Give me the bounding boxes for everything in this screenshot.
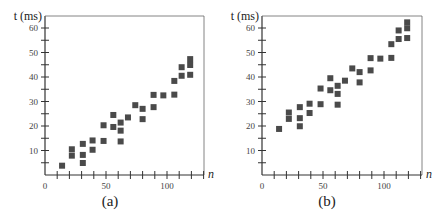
data-point-marker	[335, 83, 341, 89]
y-tick-label: 20	[29, 121, 39, 131]
data-point-marker	[318, 86, 324, 92]
data-point-marker	[357, 79, 363, 85]
data-point-marker	[318, 101, 324, 107]
data-point-marker	[125, 114, 131, 120]
data-point-marker	[404, 19, 410, 25]
x-tick-label: 100	[377, 181, 391, 191]
y-tick-label: 40	[29, 72, 39, 82]
data-point-marker	[171, 78, 177, 84]
chart-panel-b: 050100102030405060t (ms)n(b)	[231, 9, 432, 210]
data-point-marker	[132, 102, 138, 108]
data-point-marker	[327, 75, 333, 81]
x-tick-label: 100	[160, 181, 174, 191]
y-tick-label: 20	[246, 121, 256, 131]
figure-canvas: 050100102030405060t (ms)n(a) 05010010203…	[0, 0, 440, 216]
data-point-marker	[151, 92, 157, 98]
data-point-marker	[80, 152, 86, 158]
data-point-marker	[327, 87, 333, 93]
y-tick-label: 30	[246, 97, 256, 107]
data-point-marker	[90, 137, 96, 143]
data-point-marker	[80, 141, 86, 147]
data-point-marker	[160, 92, 166, 98]
x-tick-label: 50	[102, 181, 112, 191]
data-point-marker	[276, 126, 282, 132]
data-point-marker	[80, 160, 86, 166]
data-point-marker	[368, 55, 374, 61]
x-tick-label: 50	[319, 181, 329, 191]
y-tick-label: 50	[246, 48, 256, 58]
panel-caption: (b)	[318, 193, 336, 210]
data-point-marker	[297, 104, 303, 110]
data-point-marker	[118, 120, 124, 126]
data-point-marker	[179, 73, 185, 79]
data-point-marker	[118, 128, 124, 134]
y-tick-label: 10	[246, 146, 256, 156]
data-point-marker	[187, 72, 193, 78]
y-tick-label: 10	[29, 146, 39, 156]
x-axis-title: n	[426, 167, 432, 181]
data-point-marker	[101, 138, 107, 144]
data-point-marker	[171, 92, 177, 98]
data-point-marker	[368, 67, 374, 73]
data-point-marker	[335, 91, 341, 97]
data-point-marker	[151, 104, 157, 110]
data-point-marker	[286, 116, 292, 122]
data-point-marker	[377, 56, 383, 62]
data-point-marker	[307, 101, 313, 107]
data-point-marker	[404, 25, 410, 31]
data-point-marker	[396, 36, 402, 42]
y-tick-label: 30	[29, 97, 39, 107]
y-tick-label: 40	[246, 72, 256, 82]
data-point-marker	[396, 27, 402, 33]
data-point-marker	[179, 64, 185, 70]
data-point-marker	[297, 115, 303, 121]
data-point-marker	[101, 122, 107, 128]
data-point-marker	[69, 153, 75, 159]
data-point-marker	[110, 112, 116, 118]
y-tick-label: 60	[29, 23, 39, 33]
data-point-marker	[118, 138, 124, 144]
data-point-marker	[349, 65, 355, 71]
y-tick-label: 60	[246, 23, 256, 33]
y-tick-label: 50	[29, 48, 39, 58]
chart-panel-a: 050100102030405060t (ms)n(a)	[14, 9, 214, 210]
data-point-marker	[342, 78, 348, 84]
x-tick-label: 0	[260, 181, 265, 191]
data-point-marker	[286, 110, 292, 116]
data-point-marker	[69, 146, 75, 152]
data-point-marker	[140, 106, 146, 112]
data-point-marker	[90, 147, 96, 153]
data-point-marker	[335, 102, 341, 108]
panel-caption: (a)	[102, 193, 119, 210]
x-tick-label: 0	[43, 181, 48, 191]
y-axis-title: t (ms)	[14, 9, 42, 23]
data-point-marker	[110, 124, 116, 130]
data-point-marker	[297, 123, 303, 129]
data-point-marker	[187, 62, 193, 68]
data-point-marker	[307, 110, 313, 116]
x-axis-title: n	[208, 167, 214, 181]
data-point-marker	[59, 163, 65, 169]
data-point-marker	[140, 116, 146, 122]
data-point-marker	[388, 55, 394, 61]
data-point-marker	[357, 69, 363, 75]
data-point-marker	[388, 41, 394, 47]
data-point-marker	[187, 56, 193, 62]
y-axis-title: t (ms)	[231, 9, 259, 23]
data-point-marker	[404, 35, 410, 41]
